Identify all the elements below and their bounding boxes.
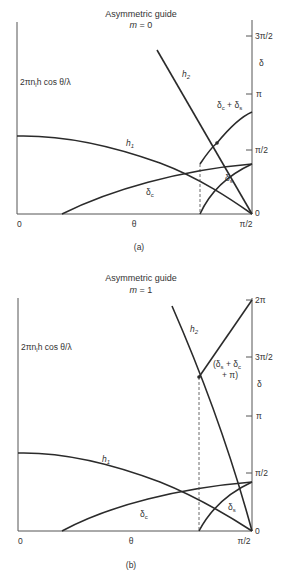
panel-a-label-h1: h1 xyxy=(126,138,134,149)
panel-b-xpi2: π/2 xyxy=(238,536,251,546)
panel-b-delta-label: δ xyxy=(257,379,262,389)
panel-a-label-delta-s: δs xyxy=(225,173,233,184)
panel-b-caption: (b) xyxy=(126,560,137,570)
panel-b-label-3pi2: 3π/2 xyxy=(255,352,273,362)
panel-a-curve-h2 xyxy=(157,50,252,214)
panel-a-delta-label: δ xyxy=(259,58,264,68)
panel-a-theta: θ xyxy=(132,219,137,229)
panel-a-label-pi2: π/2 xyxy=(255,145,268,155)
panel-b-label-pi2: π/2 xyxy=(255,468,268,478)
panel-a-label-h2: h2 xyxy=(182,69,191,80)
panel-b-label-h2: h2 xyxy=(190,324,199,335)
panel-a-xpi2: π/2 xyxy=(240,219,253,229)
panel-a-title: Asymmetric guide xyxy=(105,9,177,19)
panel-b-label-delta-c: δc xyxy=(140,509,148,520)
panel-b-x0: 0 xyxy=(18,536,23,546)
panel-a-curve-h1 xyxy=(17,136,252,214)
panel-a-label-delta-c: δc xyxy=(146,187,154,198)
panel-b-label-0: 0 xyxy=(255,526,260,536)
panel-a: Asymmetric guide m = 0 3π/2 π π/2 0 δ 0 … xyxy=(17,9,273,252)
panel-b-curve-h1 xyxy=(18,453,252,531)
panel-b-mode: m = 1 xyxy=(130,285,153,295)
panel-b: Asymmetric guide m = 1 2π 3π/2 π π/2 0 δ… xyxy=(18,273,273,570)
diagram-canvas: Asymmetric guide m = 0 3π/2 π π/2 0 δ 0 … xyxy=(0,0,289,579)
panel-b-label-pi: π xyxy=(256,411,262,421)
panel-a-curve-delta-c xyxy=(62,164,252,214)
panel-a-mode: m = 0 xyxy=(130,20,153,30)
panel-b-left-axis-label: 2πnlh cos θ/λ xyxy=(21,342,72,353)
panel-a-caption: (a) xyxy=(134,242,145,252)
panel-b-label-sum-line1: (δs + δc xyxy=(213,359,241,370)
panel-b-start-dot xyxy=(197,375,201,379)
panel-b-curve-h2 xyxy=(172,306,252,531)
panel-b-label-2pi: 2π xyxy=(255,295,266,305)
panel-a-curve-delta-s xyxy=(200,164,252,214)
panel-b-label-h1: h1 xyxy=(102,454,110,465)
panel-a-label-pi: π xyxy=(256,89,262,99)
panel-b-label-sum-line2: + π) xyxy=(222,370,238,380)
panel-b-theta: θ xyxy=(129,536,134,546)
panel-a-intersection-dot xyxy=(215,141,219,145)
panel-b-curve-delta-s xyxy=(199,482,252,531)
panel-a-label-0: 0 xyxy=(255,208,260,218)
panel-a-x0: 0 xyxy=(17,219,22,229)
panel-a-left-axis-label: 2πnlh cos θ/λ xyxy=(20,77,71,88)
panel-a-label-sum: δc + δs xyxy=(217,100,242,111)
panel-b-label-delta-s: δs xyxy=(228,502,236,513)
panel-b-curve-delta-c xyxy=(62,482,252,531)
panel-a-label-3pi2: 3π/2 xyxy=(255,31,273,41)
panel-b-title: Asymmetric guide xyxy=(105,273,177,283)
